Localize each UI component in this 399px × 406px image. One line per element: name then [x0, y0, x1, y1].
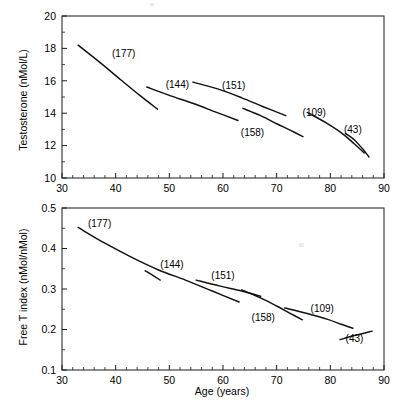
svg-text:0.3: 0.3 [41, 283, 56, 295]
curve-label-151: (151) [211, 270, 234, 281]
figure-container: 20181614121030405060708090 (177)(144)(15… [0, 0, 399, 406]
svg-text:90: 90 [378, 374, 390, 386]
svg-text:40: 40 [110, 182, 122, 194]
svg-text:18: 18 [44, 42, 56, 54]
svg-text:50: 50 [163, 182, 175, 194]
age-x-axis-title: Age (years) [195, 385, 249, 397]
curve-144 [147, 87, 238, 121]
curve-label-109: (109) [303, 107, 326, 118]
curve-label-144: (144) [160, 259, 183, 270]
curve-label-177: (177) [112, 48, 135, 59]
chart-panel-free-t-index: 0.50.40.30.20.130405060708090 (177)(144)… [0, 195, 399, 406]
curve-144 [145, 271, 160, 280]
free-t-index-curve-labels: (177)(144)(151)(158)(109)(43) [88, 218, 363, 344]
svg-text:0.5: 0.5 [41, 202, 56, 214]
svg-text:40: 40 [110, 374, 122, 386]
curve-label-43: (43) [346, 333, 364, 344]
curve-label-158: (158) [241, 127, 264, 138]
svg-text:0.2: 0.2 [41, 323, 56, 335]
svg-text:20: 20 [44, 10, 56, 22]
svg-text:14: 14 [44, 107, 56, 119]
curve-label-109: (109) [311, 303, 334, 314]
testosterone-tick-labels: 20181614121030405060708090 [44, 10, 390, 194]
svg-text:30: 30 [56, 374, 68, 386]
svg-text:30: 30 [56, 182, 68, 194]
curve-label-158: (158) [252, 312, 275, 323]
curve-label-43: (43) [344, 124, 362, 135]
svg-text:0.4: 0.4 [41, 242, 56, 254]
svg-text:70: 70 [271, 374, 283, 386]
svg-text:80: 80 [324, 374, 336, 386]
svg-text:10: 10 [44, 172, 56, 184]
scan-artifact-1 [299, 243, 304, 247]
chart-panel-testosterone: 20181614121030405060708090 (177)(144)(15… [0, 0, 399, 200]
svg-text:12: 12 [44, 139, 56, 151]
testosterone-y-axis-title: Testosterone (nMol/L) [17, 49, 29, 151]
testosterone-axes [62, 16, 384, 178]
svg-text:90: 90 [378, 182, 390, 194]
svg-text:50: 50 [163, 374, 175, 386]
free-t-index-axes [62, 208, 384, 370]
free-t-index-y-axis-title: Free T index (nMol/nMol) [17, 229, 29, 346]
scan-artifact-2 [150, 3, 154, 6]
curve-label-151: (151) [222, 80, 245, 91]
testosterone-curve-labels: (177)(144)(151)(158)(109)(43) [112, 48, 362, 138]
svg-text:70: 70 [271, 182, 283, 194]
testosterone-curves [78, 45, 369, 157]
curve-43 [345, 133, 369, 156]
curve-label-144: (144) [166, 79, 189, 90]
free-t-index-curves [78, 227, 372, 339]
free-t-index-plot-svg: 0.50.40.30.20.130405060708090 (177)(144)… [0, 195, 399, 406]
svg-text:0.1: 0.1 [41, 364, 56, 376]
curve-label-177: (177) [88, 218, 111, 229]
svg-text:60: 60 [217, 374, 229, 386]
testosterone-plot-svg: 20181614121030405060708090 (177)(144)(15… [0, 0, 399, 200]
curve-177 [78, 227, 239, 302]
svg-text:16: 16 [44, 75, 56, 87]
svg-text:80: 80 [324, 182, 336, 194]
svg-text:60: 60 [217, 182, 229, 194]
